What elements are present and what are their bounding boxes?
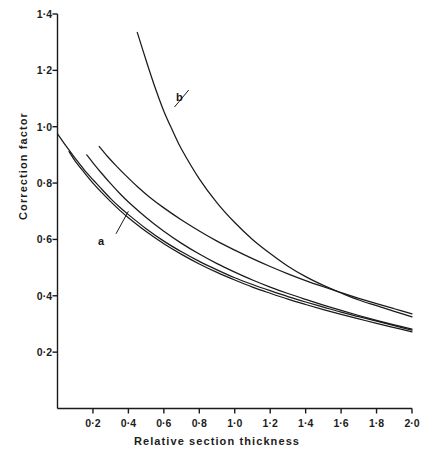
x-tick-label: 0·6 [147,418,181,429]
chart-curves [58,32,413,332]
y-tick-label: 0·2 [14,347,52,358]
x-tick-label: 1·6 [324,418,358,429]
chart-axes [58,14,413,409]
curve-b [137,32,412,317]
x-tick-label: 0·4 [111,418,145,429]
y-tick-label: 0·4 [14,291,52,302]
x-tick-label: 1·4 [289,418,323,429]
curve-label-a: a [98,236,104,247]
x-tick-label: 0·2 [76,418,110,429]
curve-label-b: b [176,92,183,103]
chart-plot-area [0,0,434,457]
x-tick-label: 1·8 [360,418,394,429]
x-tick-label: 0·8 [182,418,216,429]
x-axis-title: Relative section thickness [0,435,434,447]
x-tick-label: 2·0 [395,418,429,429]
y-tick-label: 1·2 [14,65,52,76]
curve-curve-2 [69,152,412,332]
y-axis-title: Correction factor [17,86,29,246]
chart-annotation-leaders [116,90,189,234]
x-tick-label: 1·0 [218,418,252,429]
x-tick-label: 1·2 [253,418,287,429]
leader-line-a [116,211,128,234]
curve-curve-3 [87,155,412,329]
chart-tick-marks [53,14,413,414]
chart-figure: 0·20·40·60·81·01·21·4 0·20·40·60·81·01·2… [0,0,434,457]
curve-a [58,134,413,330]
y-tick-label: 1·4 [14,9,52,20]
